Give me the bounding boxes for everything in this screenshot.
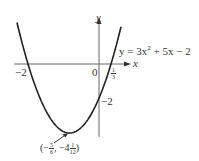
graph-canvas [0, 0, 199, 161]
vertex-label: (−56, −4112) [40, 142, 79, 155]
y-intercept-label: −2 [101, 96, 113, 107]
y-axis-label: y [96, 12, 101, 23]
x-axis-label: x [133, 58, 138, 69]
x-axis-arrow-icon [124, 62, 131, 67]
parabola-diagram: y x y = 3x2 + 5x − 2 −2 0 13 −2 (−56, −4… [0, 0, 199, 161]
parabola-curve [17, 23, 121, 134]
equation-label: y = 3x2 + 5x − 2 [119, 43, 191, 57]
origin-label: 0 [92, 67, 98, 78]
equation-rhs: + 5x − 2 [151, 45, 191, 57]
equation-lhs: y = 3x [119, 45, 147, 57]
x-intercept-left-label: −2 [15, 67, 27, 78]
x-intercept-right-label: 13 [111, 67, 116, 80]
